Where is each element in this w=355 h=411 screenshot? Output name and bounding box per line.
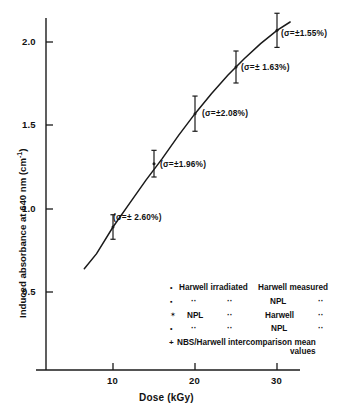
legend-row4-ditto-c: ··: [318, 324, 323, 333]
sigma-annotation-10kgy: (σ=± 2.60%): [113, 212, 162, 222]
error-bar-20kgy: [192, 96, 197, 131]
legend-row4-measured-by: NPL: [271, 324, 287, 333]
legend-marker-small-dot-icon: •: [170, 325, 172, 332]
x-tick-label-20: 20: [189, 375, 200, 386]
legend-row1-irradiated-by: Harwell irradiated: [179, 283, 248, 292]
sigma-annotation-20kgy: (σ=±2.08%): [202, 108, 248, 118]
data-point-marker: [276, 29, 279, 32]
legend-row4-ditto-a: ··: [191, 324, 196, 333]
error-bar-25kgy: [233, 51, 238, 83]
legend-row2-ditto-c: ··: [318, 297, 323, 306]
x-axis-title: Dose (kGy): [139, 392, 194, 403]
y-axis-title-superscript: -1: [16, 152, 23, 158]
y-tick-label-1.5: 1.5: [22, 119, 36, 130]
error-bar-group: [110, 13, 279, 239]
y-axis-title-tail: ): [17, 149, 28, 152]
legend-marker-plus-icon: +: [169, 338, 174, 347]
legend-row2-ditto-a: ··: [191, 297, 196, 306]
legend-row3-ditto-b: ··: [318, 311, 323, 320]
x-axis-ticks: [113, 363, 277, 370]
legend-row2-measured-by: NPL: [270, 297, 286, 306]
x-tick-label-30: 30: [271, 375, 282, 386]
y-axis-title: Induced absorbance at 640 nm (cm-1): [16, 149, 28, 318]
data-point-marker: [235, 66, 238, 69]
legend-row5-description: NBS/Harwell intercomparison mean: [177, 338, 316, 347]
legend-row5-values: values: [290, 347, 316, 356]
data-point-marker: [153, 162, 156, 165]
y-axis-ticks: [46, 42, 53, 292]
y-tick-label-2.0: 2.0: [22, 36, 36, 47]
legend-row4-ditto-b: ··: [227, 324, 232, 333]
y-axis-title-main: Induced absorbance at 640 nm (cm: [17, 158, 28, 318]
sigma-annotation-25kgy: (σ=± 1.63%): [241, 62, 290, 72]
legend-marker-filled-circle-icon: •: [170, 284, 172, 291]
error-bar-30kgy: [274, 13, 279, 47]
legend-row3-irradiated-by: NPL: [187, 311, 203, 320]
fitted-curve: [84, 22, 290, 269]
data-point-marker: [194, 112, 197, 115]
legend-row1-measured-by: Harwell measured: [258, 283, 328, 292]
x-tick-label-10: 10: [107, 375, 118, 386]
legend-row2-ditto-b: ··: [227, 297, 232, 306]
legend-marker-asterisk-icon: ✶: [170, 311, 176, 319]
legend-row3-measured-by: Harwell: [265, 311, 294, 320]
legend-row3-ditto-a: ··: [227, 311, 232, 320]
sigma-annotation-30kgy: (σ=±1.55%): [281, 28, 327, 38]
data-point-marker: [112, 226, 115, 229]
legend-marker-filled-square-icon: ▪: [170, 298, 172, 305]
chart-figure: 2.0 1.5 1.0 0.5 10 20 30 Dose (kGy) Indu…: [0, 0, 355, 411]
sigma-annotation-15kgy: (σ=±1.96%): [160, 159, 206, 169]
